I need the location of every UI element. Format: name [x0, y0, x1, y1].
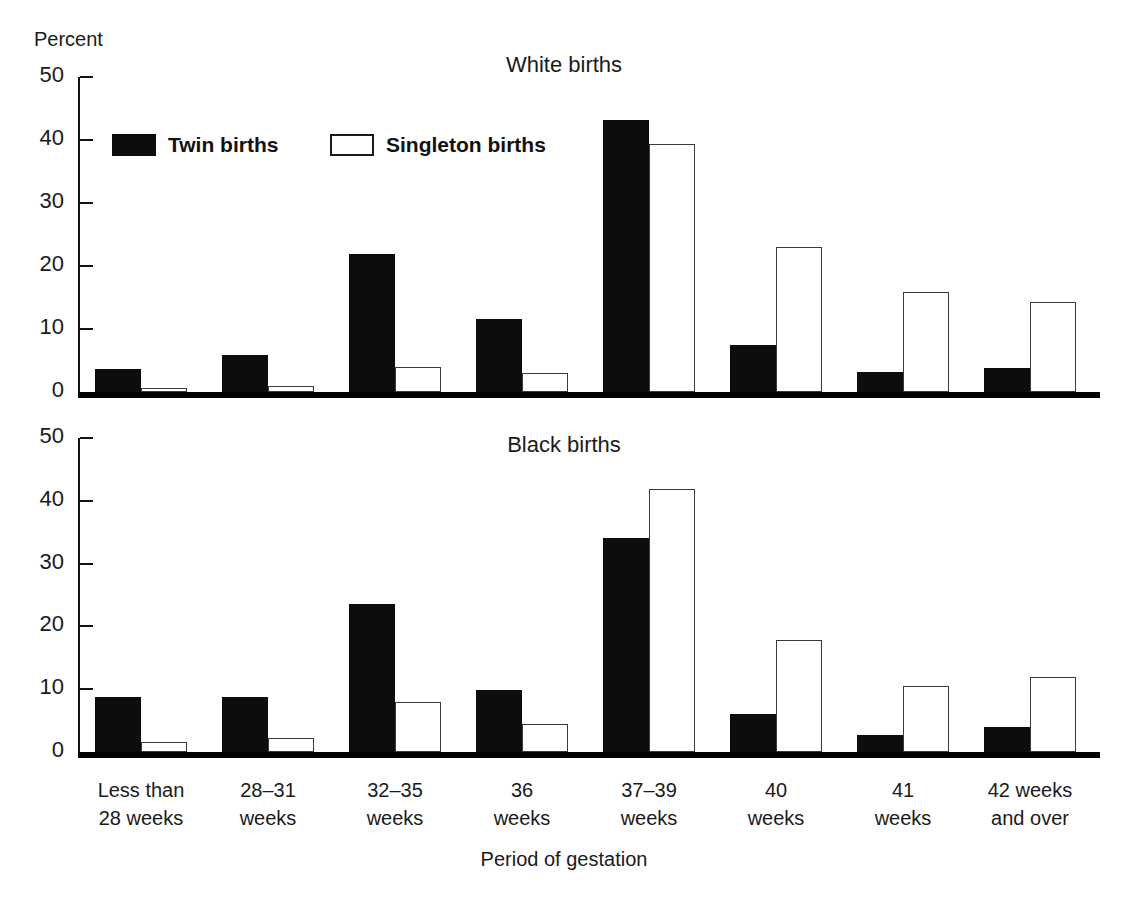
category-label-line-1: 32–35 [367, 779, 423, 801]
bar-twin [603, 538, 649, 752]
y-axis-tick [80, 563, 93, 565]
y-axis-tick [80, 625, 93, 627]
category-label-line-1: 42 weeks [988, 779, 1073, 801]
x-axis-category-label: 42 weeksand over [950, 776, 1110, 832]
y-axis-tick [80, 688, 93, 690]
category-label-line-1: Less than [98, 779, 185, 801]
y-axis-tick-label: 50 [8, 423, 64, 449]
figure-root: Percent White births 01020304050 Twin bi… [0, 0, 1128, 899]
y-axis-tick-label: 20 [8, 611, 64, 637]
x-axis-baseline [78, 752, 1100, 758]
bar-singleton [395, 702, 441, 752]
category-label-line-1: 36 [511, 779, 533, 801]
chart-panel-black-births: Black births 01020304050 [0, 0, 1128, 899]
bar-twin [349, 604, 395, 752]
plot-area-black: 01020304050 [0, 0, 1128, 899]
bar-singleton [903, 686, 949, 752]
y-axis-line [78, 438, 80, 752]
x-axis-title: Period of gestation [0, 848, 1128, 871]
category-label-line-1: 41 [892, 779, 914, 801]
y-axis-tick-label: 30 [8, 549, 64, 575]
y-axis-tick [80, 437, 93, 439]
y-axis-tick-label: 0 [8, 737, 64, 763]
y-axis-tick-label: 10 [8, 674, 64, 700]
bar-singleton [1030, 677, 1076, 752]
y-axis-tick [80, 500, 93, 502]
bar-twin [857, 735, 903, 752]
category-label-line-1: 40 [765, 779, 787, 801]
category-label-line-2: and over [950, 804, 1110, 832]
bar-singleton [268, 738, 314, 752]
bar-singleton [776, 640, 822, 752]
category-label-line-1: 28–31 [240, 779, 296, 801]
y-axis-tick-label: 40 [8, 486, 64, 512]
bar-twin [730, 714, 776, 752]
bar-twin [222, 697, 268, 752]
category-label-line-1: 37–39 [621, 779, 677, 801]
bar-singleton [649, 489, 695, 752]
bar-twin [476, 690, 522, 752]
bar-singleton [141, 742, 187, 752]
bar-singleton [522, 724, 568, 752]
bar-twin [984, 727, 1030, 752]
bar-twin [95, 697, 141, 752]
